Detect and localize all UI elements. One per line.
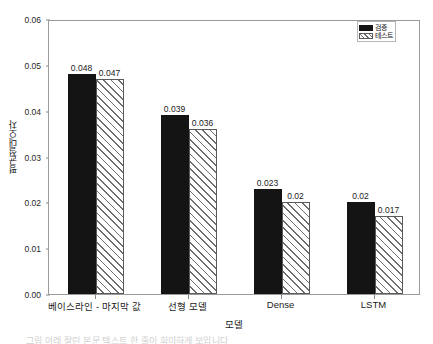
bar-test <box>96 79 124 294</box>
x-tick-label: 베이스라인 - 마지막 값 <box>48 299 140 313</box>
x-tick-label: LSTM <box>361 299 386 310</box>
legend-item-test: 테스트 <box>359 32 393 39</box>
y-tick-label: 0.05 <box>0 61 46 71</box>
bar-value-label: 0.047 <box>99 68 120 78</box>
bar-value-label: 0.02 <box>352 191 369 201</box>
bar-validation <box>161 115 189 294</box>
bar-test <box>189 129 217 294</box>
y-tick-label: 0.00 <box>0 290 46 300</box>
plot-area: 0.0480.0470.0390.0360.0230.020.020.017 <box>48 20 420 295</box>
legend-label-test: 테스트 <box>375 32 393 39</box>
bar-value-label: 0.023 <box>257 178 278 188</box>
chart-legend: 검증 테스트 <box>357 21 396 42</box>
bar-value-label: 0.02 <box>287 191 304 201</box>
legend-label-validation: 검증 <box>375 24 387 31</box>
legend-item-validation: 검증 <box>359 24 393 31</box>
y-tick-label: 0.02 <box>0 198 46 208</box>
x-tick-label: 선형 모델 <box>168 299 207 313</box>
y-tick-label: 0.06 <box>0 15 46 25</box>
x-tick-label: Dense <box>267 299 294 310</box>
bar-value-label: 0.039 <box>164 104 185 114</box>
figure-container: 평균절대오차 0.000.010.020.030.040.050.06 0.04… <box>0 0 433 344</box>
bar-value-label: 0.048 <box>71 63 92 73</box>
bar-validation <box>347 202 375 294</box>
bar-value-label: 0.017 <box>378 205 399 215</box>
x-axis-label: 모델 <box>48 317 420 331</box>
bar-test <box>282 202 310 294</box>
y-tick-label: 0.01 <box>0 244 46 254</box>
legend-swatch-validation-icon <box>359 25 373 31</box>
x-axis-ticks: 베이스라인 - 마지막 값선형 모델DenseLSTM <box>48 297 420 317</box>
bar-test <box>375 216 403 294</box>
page-caption-cutoff: 그림 아래 잘린 본문 텍스트 한 줄이 희미하게 보입니다 <box>26 334 407 344</box>
bar-value-label: 0.036 <box>192 118 213 128</box>
y-tick-label: 0.03 <box>0 153 46 163</box>
bar-validation <box>68 74 96 294</box>
y-axis-ticks: 0.000.010.020.030.040.050.06 <box>0 0 46 344</box>
legend-swatch-test-icon <box>359 33 373 39</box>
y-tick-label: 0.04 <box>0 107 46 117</box>
bar-validation <box>254 189 282 294</box>
